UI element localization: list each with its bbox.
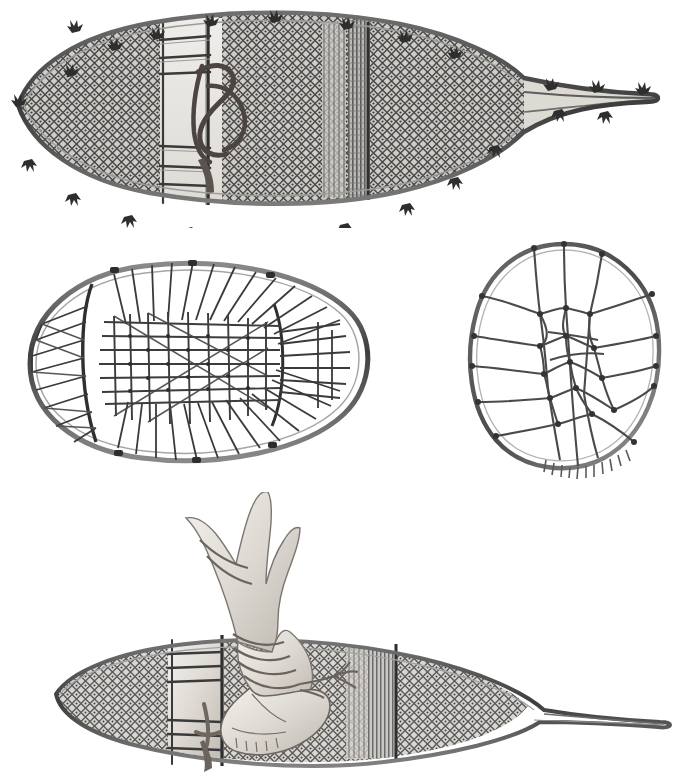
- figure-long-pointed-tail-snowshoe: [0, 0, 677, 228]
- round-bearpaw-drawing: [452, 236, 677, 488]
- rear-weave-band-bottom: [368, 648, 396, 758]
- babiche-mesh-fill-bottom: [0, 492, 677, 783]
- toe-hole-panel-bottom: [168, 638, 224, 766]
- oval-bearpaw-drawing: [18, 236, 390, 488]
- long-snowshoe-drawing: [0, 0, 677, 228]
- snowshoe-with-foot-drawing: [0, 492, 677, 783]
- illustration-plate: [0, 0, 677, 783]
- figure-oval-bearpaw-snowshoe: [18, 236, 390, 488]
- legging-upper: [186, 492, 300, 652]
- figure-round-bearpaw-snowshoe: [452, 236, 677, 488]
- figure-snowshoe-with-moccasin-foot: [0, 492, 677, 783]
